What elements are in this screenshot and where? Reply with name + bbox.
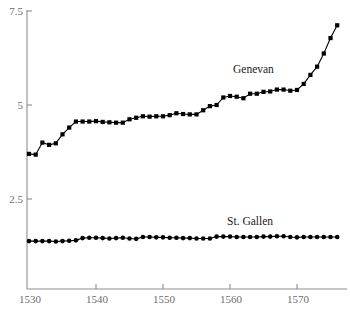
data-point-marker — [241, 235, 246, 240]
data-point-marker — [322, 51, 326, 55]
data-point-marker — [201, 108, 205, 112]
series-genevan — [27, 23, 339, 157]
series-st-gallen — [27, 234, 340, 244]
data-point-marker — [100, 236, 105, 241]
data-point-marker — [208, 236, 213, 241]
data-point-marker — [315, 65, 319, 69]
data-point-marker — [302, 82, 306, 86]
data-point-marker — [181, 236, 186, 241]
data-point-marker — [127, 117, 131, 121]
data-point-marker — [47, 239, 52, 244]
data-point-marker — [134, 237, 139, 242]
series-labels: GenevanSt. Gallen — [227, 63, 274, 227]
data-point-marker — [288, 235, 293, 240]
data-point-marker — [81, 119, 85, 123]
data-point-marker — [54, 239, 59, 244]
data-point-marker — [67, 125, 71, 129]
data-point-marker — [295, 235, 300, 240]
series-label-st-gallen: St. Gallen — [227, 215, 273, 227]
data-point-marker — [315, 235, 320, 240]
data-point-marker — [188, 112, 192, 116]
data-point-marker — [60, 132, 64, 136]
data-point-marker — [308, 73, 312, 77]
data-point-marker — [201, 236, 206, 241]
chart-canvas: 7.552.5 15301540155015601570 GenevanSt. … — [0, 0, 350, 316]
data-point-marker — [268, 89, 272, 93]
data-point-marker — [248, 235, 253, 240]
data-point-marker — [167, 235, 172, 240]
data-point-marker — [161, 114, 165, 118]
data-point-marker — [107, 236, 112, 241]
data-series — [27, 23, 340, 244]
data-point-marker — [141, 114, 145, 118]
data-point-marker — [87, 235, 92, 240]
data-point-marker — [40, 141, 44, 145]
x-tick-label: 1530 — [19, 293, 42, 305]
data-point-marker — [254, 235, 259, 240]
x-tick-label: 1560 — [220, 293, 243, 305]
data-point-marker — [295, 88, 299, 92]
data-point-marker — [27, 152, 31, 156]
data-point-marker — [194, 236, 199, 241]
data-point-marker — [221, 95, 225, 99]
data-point-marker — [33, 239, 38, 244]
data-point-marker — [328, 36, 332, 40]
data-point-marker — [67, 238, 72, 243]
data-point-marker — [208, 104, 212, 108]
y-tick-label: 2.5 — [9, 193, 23, 205]
data-point-marker — [234, 235, 239, 240]
axes — [27, 10, 347, 289]
data-point-marker — [134, 116, 138, 120]
data-point-marker — [335, 235, 340, 240]
data-point-marker — [40, 239, 45, 244]
data-point-marker — [194, 112, 198, 116]
data-point-marker — [181, 112, 185, 116]
data-point-marker — [255, 92, 259, 96]
data-point-marker — [94, 235, 99, 240]
data-point-marker — [228, 94, 232, 98]
data-point-marker — [168, 113, 172, 117]
series-label-genevan: Genevan — [233, 63, 274, 75]
data-point-marker — [174, 235, 179, 240]
data-point-marker — [148, 115, 152, 119]
data-point-marker — [114, 121, 118, 125]
data-point-marker — [261, 234, 266, 239]
y-tick-label: 5 — [18, 99, 24, 111]
x-axis-ticks: 15301540155015601570 — [19, 284, 310, 305]
data-point-marker — [221, 234, 226, 239]
y-axis-ticks: 7.552.5 — [9, 5, 32, 205]
data-point-marker — [215, 103, 219, 107]
data-point-marker — [141, 235, 146, 240]
data-point-marker — [107, 120, 111, 124]
data-point-marker — [147, 235, 152, 240]
data-point-marker — [74, 119, 78, 123]
data-point-marker — [268, 234, 273, 239]
data-point-marker — [161, 235, 166, 240]
data-point-marker — [47, 143, 51, 147]
data-point-marker — [275, 234, 280, 239]
data-point-marker — [275, 87, 279, 91]
data-point-marker — [322, 235, 327, 240]
data-point-marker — [241, 96, 245, 100]
data-point-marker — [328, 235, 333, 240]
data-point-marker — [87, 119, 91, 123]
y-tick-label: 7.5 — [9, 5, 23, 17]
data-point-marker — [282, 87, 286, 91]
x-tick-label: 1550 — [153, 293, 176, 305]
data-point-marker — [121, 121, 125, 125]
data-point-marker — [54, 141, 58, 145]
data-point-marker — [27, 239, 32, 244]
data-point-marker — [94, 119, 98, 123]
line-chart: 7.552.5 15301540155015601570 GenevanSt. … — [0, 0, 350, 316]
data-point-marker — [288, 89, 292, 93]
data-point-marker — [248, 92, 252, 96]
data-point-marker — [60, 239, 65, 244]
data-point-marker — [301, 235, 306, 240]
data-point-marker — [174, 111, 178, 115]
data-point-marker — [101, 120, 105, 124]
data-point-marker — [261, 90, 265, 94]
data-point-marker — [114, 236, 119, 241]
data-point-marker — [281, 234, 286, 239]
data-point-marker — [228, 234, 233, 239]
data-point-marker — [214, 234, 219, 239]
